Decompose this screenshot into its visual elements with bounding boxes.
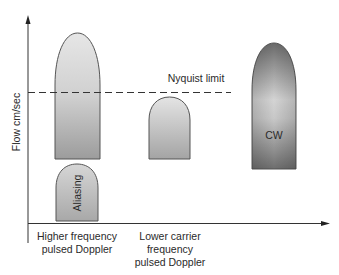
- x-axis: [28, 221, 330, 226]
- aliasing-label: Aliasing: [71, 174, 83, 211]
- x-label-line: Lower carrier: [139, 230, 201, 242]
- x-label-line: Higher frequency: [37, 230, 118, 242]
- x-label-line: frequency: [147, 243, 194, 255]
- y-axis-label: Flow cm/sec: [10, 93, 22, 151]
- y-axis: [26, 15, 31, 243]
- higher-frequency-spectrum-shape: [55, 33, 100, 159]
- doppler-diagram: Flow cm/sec Aliasing CW Nyquist limit Hi…: [0, 0, 339, 275]
- nyquist-limit-label: Nyquist limit: [168, 72, 225, 84]
- x-label-higher-frequency: Higher frequency pulsed Doppler: [37, 230, 118, 255]
- x-axis-arrow-icon: [321, 221, 330, 226]
- lower-frequency-spectrum-shape: [149, 97, 190, 159]
- x-label-line: pulsed Doppler: [135, 256, 206, 268]
- x-label-line: pulsed Doppler: [42, 243, 113, 255]
- cw-label: CW: [265, 129, 283, 141]
- x-label-lower-frequency: Lower carrier frequency pulsed Doppler: [135, 230, 206, 268]
- y-axis-arrow-icon: [26, 15, 31, 24]
